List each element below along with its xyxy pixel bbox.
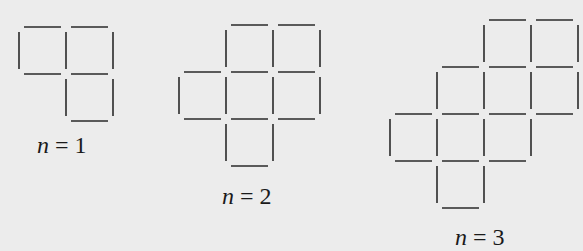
figure-n3: [390, 20, 578, 208]
label-eq: = 2: [234, 183, 272, 209]
label-n1: n = 1: [37, 132, 87, 159]
figure-n2: [179, 25, 320, 166]
label-n2: n = 2: [222, 183, 272, 210]
label-var: n: [455, 224, 467, 250]
label-n3: n = 3: [455, 224, 505, 251]
label-eq: = 1: [49, 132, 87, 158]
label-eq: = 3: [467, 224, 505, 250]
matchstick-figures: [0, 0, 583, 251]
figure-n1: [19, 27, 113, 121]
label-var: n: [37, 132, 49, 158]
label-var: n: [222, 183, 234, 209]
